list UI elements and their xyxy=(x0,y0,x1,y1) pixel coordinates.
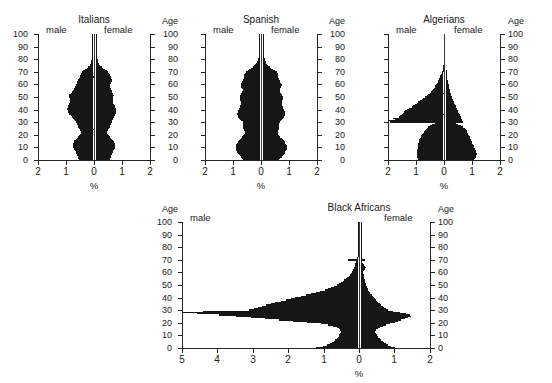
bar-female xyxy=(361,318,405,319)
bar-female xyxy=(96,49,97,50)
bar-female xyxy=(96,86,111,87)
bar-female xyxy=(446,100,454,101)
bar-female xyxy=(263,34,264,35)
age-tick xyxy=(501,84,505,85)
pct-axis-label: % xyxy=(251,180,271,191)
age-tick xyxy=(151,34,155,35)
bar-female xyxy=(96,123,112,124)
bar-male xyxy=(417,154,444,155)
bar-female xyxy=(263,94,282,95)
age-tick-label: 70 xyxy=(156,68,178,77)
bar-female xyxy=(263,130,279,131)
bar-male xyxy=(203,311,359,312)
age-tick xyxy=(384,59,388,60)
bar-male xyxy=(240,106,261,107)
bar-female xyxy=(96,65,100,66)
bar-male xyxy=(275,302,358,303)
bar-female xyxy=(361,259,365,260)
bar-female xyxy=(361,312,400,313)
bar-female xyxy=(96,133,108,134)
bar-male xyxy=(69,95,94,96)
age-tick xyxy=(431,272,435,273)
bar-female xyxy=(263,69,274,70)
age-tick xyxy=(34,47,38,48)
bar-male xyxy=(243,80,261,81)
bar-male xyxy=(339,328,359,329)
bar-male xyxy=(254,308,358,309)
bar-male xyxy=(281,301,359,302)
age-tick-label: 40 xyxy=(154,294,172,303)
bar-male xyxy=(352,271,358,272)
age-tick-label: 90 xyxy=(508,43,526,52)
bar-male xyxy=(430,93,444,94)
bar-female xyxy=(96,99,113,100)
population-pyramid-figure: 21012%Italiansmalefemale21012%Spanishmal… xyxy=(0,0,552,383)
pct-tick xyxy=(289,161,290,165)
bar-male xyxy=(435,123,443,124)
bar-female xyxy=(446,84,449,85)
bar-male xyxy=(78,136,94,137)
age-tick xyxy=(431,335,435,336)
bar-female xyxy=(263,61,266,62)
bar-male xyxy=(427,128,443,129)
bar-female xyxy=(446,86,450,87)
age-tick xyxy=(34,135,38,136)
bar-female xyxy=(263,139,283,140)
bar-female xyxy=(96,94,114,95)
bar-male xyxy=(241,120,260,121)
bar-female xyxy=(96,145,116,146)
bar-female xyxy=(446,139,471,140)
bar-male xyxy=(266,304,358,305)
bar-male xyxy=(237,114,261,115)
bar-female xyxy=(96,120,113,121)
bar-male xyxy=(354,268,359,269)
pct-tick-label: 1 xyxy=(462,167,482,177)
age-tick xyxy=(178,260,182,261)
age-axis-left xyxy=(388,34,389,161)
bar-female xyxy=(361,311,394,312)
bar-female xyxy=(263,133,278,134)
age-tick-label: 20 xyxy=(10,131,28,140)
bar-male xyxy=(419,141,444,142)
pct-tick xyxy=(253,349,254,353)
bar-female xyxy=(446,148,475,149)
age-tick xyxy=(34,147,38,148)
bar-female xyxy=(263,95,283,96)
bar-female xyxy=(263,115,285,116)
bar-male xyxy=(74,149,93,150)
bar-male xyxy=(242,88,260,89)
age-tick xyxy=(431,323,435,324)
bar-male xyxy=(219,314,359,315)
bar-female xyxy=(263,125,280,126)
bar-male xyxy=(328,288,358,289)
bar-female xyxy=(446,158,475,159)
bar-male xyxy=(77,138,94,139)
age-tick-label: 20 xyxy=(508,131,526,140)
bar-female xyxy=(361,336,378,337)
bar-male xyxy=(418,148,444,149)
bar-female xyxy=(263,124,280,125)
bar-male xyxy=(242,91,260,92)
bar-male xyxy=(242,81,260,82)
pct-tick-label: 1 xyxy=(314,355,334,365)
bar-male xyxy=(327,344,358,345)
bar-female xyxy=(263,83,281,84)
bar-male xyxy=(332,342,358,343)
bar-female xyxy=(96,58,98,59)
bar-female xyxy=(96,76,111,77)
bar-female xyxy=(446,131,468,132)
bar-female xyxy=(446,81,449,82)
bar-male xyxy=(271,303,359,304)
bar-female xyxy=(263,64,268,65)
bar-female xyxy=(96,55,98,56)
age-tick xyxy=(431,310,435,311)
bar-male xyxy=(243,125,260,126)
bar-female xyxy=(361,346,392,347)
bar-female xyxy=(96,149,114,150)
bar-female xyxy=(361,273,364,274)
age-tick-label: 60 xyxy=(323,80,345,89)
bar-male xyxy=(74,140,93,141)
bar-female xyxy=(361,258,362,259)
bar-female xyxy=(446,135,470,136)
age-tick-label: 40 xyxy=(323,106,345,115)
